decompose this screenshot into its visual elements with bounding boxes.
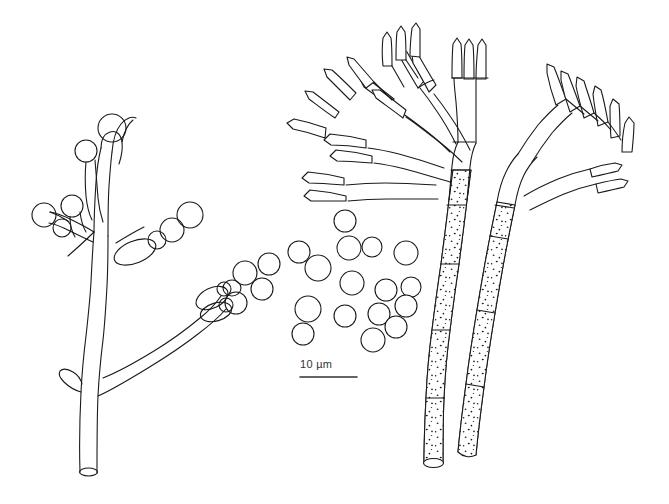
conidium bbox=[394, 241, 418, 265]
conidium bbox=[251, 278, 273, 300]
ink-layer bbox=[32, 23, 634, 476]
conidium bbox=[292, 323, 314, 345]
middle-penicillus bbox=[287, 23, 488, 468]
conidium bbox=[337, 236, 361, 260]
conidia-cluster bbox=[251, 210, 421, 352]
conidium bbox=[258, 253, 280, 275]
conidium bbox=[375, 279, 397, 301]
conidium bbox=[401, 277, 421, 297]
conidium bbox=[305, 255, 331, 281]
left-right-branch-tip bbox=[192, 261, 257, 325]
conidium bbox=[288, 241, 310, 263]
left-mid-branch bbox=[110, 202, 203, 270]
illustration-canvas bbox=[0, 0, 669, 504]
conidium bbox=[385, 316, 407, 338]
conidium bbox=[340, 271, 364, 295]
conidium bbox=[395, 295, 417, 317]
right-penicillus bbox=[458, 64, 634, 457]
conidium bbox=[295, 296, 321, 322]
conidium bbox=[361, 328, 385, 352]
figure-plate: 10 µm bbox=[0, 0, 669, 504]
scale-bar-label: 10 µm bbox=[300, 358, 332, 370]
conidium bbox=[334, 210, 356, 232]
conidium bbox=[334, 305, 356, 327]
conidium bbox=[362, 237, 382, 257]
left-conidiophore bbox=[32, 114, 257, 476]
